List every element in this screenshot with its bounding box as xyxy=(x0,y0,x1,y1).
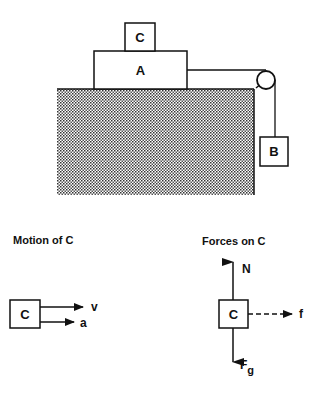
normal-force-label: N xyxy=(242,262,251,276)
gravity-label-main: F xyxy=(240,358,247,372)
block-a: A xyxy=(94,51,187,89)
motion-panel-title: Motion of C xyxy=(13,234,74,246)
block-c-label: C xyxy=(135,30,145,45)
friction-label: f xyxy=(299,307,304,321)
gravity-label: Fg xyxy=(240,358,254,376)
block-b: B xyxy=(260,137,288,166)
block-a-label: A xyxy=(136,63,146,78)
pulley-icon xyxy=(257,71,275,89)
table xyxy=(57,89,254,195)
forces-panel-title: Forces on C xyxy=(202,235,266,247)
gravity-label-subscript: g xyxy=(247,364,254,376)
forces-panel: Forces on C C N f Fg xyxy=(202,235,304,376)
motion-block-label: C xyxy=(20,307,30,322)
block-c: C xyxy=(125,23,155,51)
physics-diagram: A C B Motion of C C v a Forces on C C N xyxy=(0,0,320,395)
forces-block-label: C xyxy=(229,307,239,322)
velocity-label: v xyxy=(91,300,98,314)
block-b-label: B xyxy=(269,144,278,159)
acceleration-label: a xyxy=(80,316,87,330)
motion-panel: Motion of C C v a xyxy=(10,234,98,330)
table-surface xyxy=(57,89,254,195)
